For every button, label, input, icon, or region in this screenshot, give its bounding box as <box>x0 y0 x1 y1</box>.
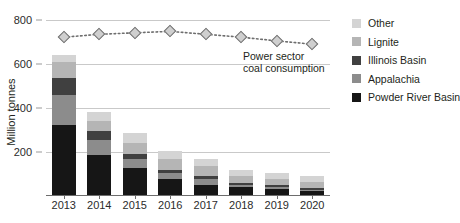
bar-stack <box>229 170 253 196</box>
bar-segment <box>87 112 111 121</box>
bar-segment <box>87 140 111 155</box>
y-tick-mark <box>36 108 42 109</box>
y-tick-mark <box>36 64 42 65</box>
legend-swatch-icon <box>352 74 361 83</box>
bar-stack <box>265 173 289 196</box>
legend-label: Appalachia <box>368 73 420 85</box>
plot-area: 200400600800 <box>46 20 330 196</box>
bar-segment <box>52 62 76 78</box>
x-tick-mark <box>135 195 136 199</box>
bar-segment <box>87 131 111 140</box>
x-tick-mark <box>241 195 242 199</box>
x-tick-mark <box>64 195 65 199</box>
y-tick-mark <box>36 152 42 153</box>
bar-segment <box>300 182 324 189</box>
x-tick-mark <box>312 195 313 199</box>
bar-segment <box>194 159 218 166</box>
legend-item[interactable]: Lignite <box>352 33 460 52</box>
x-tick-label: 2017 <box>194 199 218 211</box>
bar-segment <box>52 55 76 62</box>
bar-stack <box>52 55 76 196</box>
x-tick-mark <box>99 195 100 199</box>
x-tick-label: 2013 <box>52 199 76 211</box>
chart-legend: OtherLigniteIllinois BasinAppalachiaPowd… <box>352 14 460 107</box>
bar-segment <box>194 166 218 176</box>
bar-segment <box>87 155 111 196</box>
x-tick-label: 2019 <box>265 199 289 211</box>
bar-segment <box>123 133 147 143</box>
bar-segment <box>87 121 111 131</box>
legend-label: Illinois Basin <box>368 54 426 66</box>
series-annotation: Power sector coal consumption <box>243 50 338 74</box>
bar-segment <box>158 151 182 159</box>
legend-item[interactable]: Powder River Basin <box>352 88 460 107</box>
legend-label: Other <box>368 17 394 29</box>
bar-segment <box>123 159 147 168</box>
bar-series-layer <box>46 20 330 196</box>
annotation-line-1: Power sector <box>243 50 338 62</box>
bar-segment <box>52 125 76 197</box>
legend-swatch-icon <box>352 93 361 102</box>
bar-stack <box>123 133 147 196</box>
legend-label: Powder River Basin <box>368 91 460 103</box>
bar-stack <box>87 112 111 196</box>
bar-segment <box>158 179 182 196</box>
bar-stack <box>158 151 182 196</box>
x-tick-label: 2016 <box>158 199 182 211</box>
bar-stack <box>300 176 324 196</box>
legend-swatch-icon <box>352 19 361 28</box>
bar-segment <box>123 168 147 196</box>
bar-segment <box>52 78 76 95</box>
legend-label: Lignite <box>368 36 399 48</box>
y-tick-mark <box>36 20 42 21</box>
x-tick-label: 2018 <box>229 199 253 211</box>
bar-segment <box>158 159 182 170</box>
legend-item[interactable]: Other <box>352 14 460 33</box>
x-tick-mark <box>206 195 207 199</box>
x-axis-baseline <box>46 195 330 196</box>
bar-segment <box>123 143 147 154</box>
x-tick-mark <box>277 195 278 199</box>
x-tick-label: 2020 <box>300 199 324 211</box>
x-tick-label: 2015 <box>123 199 147 211</box>
x-tick-label: 2014 <box>87 199 111 211</box>
annotation-line-2: coal consumption <box>243 62 338 74</box>
legend-swatch-icon <box>352 37 361 46</box>
legend-item[interactable]: Illinois Basin <box>352 51 460 70</box>
bar-segment <box>265 179 289 186</box>
y-tick-label: 200 <box>2 146 32 158</box>
bar-segment <box>229 176 253 183</box>
legend-item[interactable]: Appalachia <box>352 70 460 89</box>
bar-segment <box>52 95 76 124</box>
x-axis-labels: 20132014201520162017201820192020 <box>46 199 330 219</box>
y-tick-label: 600 <box>2 58 32 70</box>
y-tick-label: 400 <box>2 102 32 114</box>
legend-swatch-icon <box>352 56 361 65</box>
bar-stack <box>194 159 218 196</box>
y-tick-label: 800 <box>2 14 32 26</box>
x-tick-mark <box>170 195 171 199</box>
chart-container: Million tonnes 200400600800 201320142015… <box>0 0 460 223</box>
